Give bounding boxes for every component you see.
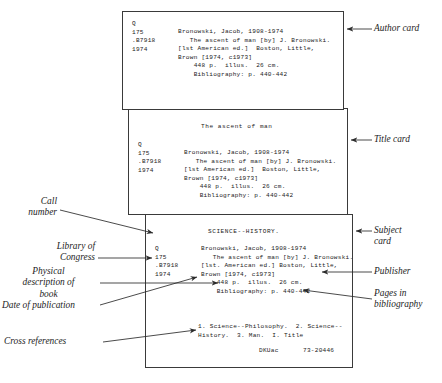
catalog-card-diagram: Q 175 .B7918 1974 Bronowski, Jacob, 1908… xyxy=(0,0,442,383)
annotation-author-card: Author card xyxy=(374,23,440,34)
subject-card-body: Bronowski, Jacob, 1908-1974 The ascent o… xyxy=(201,245,353,297)
annotation-subject-card: Subject card xyxy=(374,225,440,248)
subject-card-heading: SCIENCE--HISTORY. xyxy=(208,228,280,237)
subject-card-lc-number: 73-20446 xyxy=(303,347,334,356)
author-card-body: Bronowski, Jacob, 1908-1974 The ascent o… xyxy=(178,28,330,80)
title-card-call-number: Q 175 .B7918 1974 xyxy=(138,141,161,175)
annotation-library-of-congress: Library of Congress xyxy=(0,241,95,264)
title-card-body: Bronowski, Jacob, 1908-1974 The ascent o… xyxy=(184,149,336,201)
subject-card-call-number: Q 175 .B7918 1974 xyxy=(155,245,178,279)
subject-card-source-symbol: DKUac xyxy=(259,347,279,356)
author-card-call-number: Q 175 .B7918 1974 xyxy=(132,20,155,54)
annotation-cross-references: Cross references xyxy=(4,336,104,347)
title-card: The ascent of man Q 175 .B7918 1974 Bron… xyxy=(128,108,348,215)
annotation-date-of-publication: Date of publication xyxy=(2,300,102,311)
annotation-pages-in-bibliography: Pages in bibliography xyxy=(374,288,442,311)
annotation-publisher: Publisher xyxy=(374,266,442,277)
author-card: Q 175 .B7918 1974 Bronowski, Jacob, 1908… xyxy=(122,11,344,110)
annotation-title-card: Title card xyxy=(374,134,440,145)
subject-card-tracings: 1. Science--Philosophy. 2. Science-- His… xyxy=(198,323,343,340)
annotation-call-number: Call number xyxy=(0,196,57,219)
title-card-heading: The ascent of man xyxy=(201,123,273,132)
subject-card: SCIENCE--HISTORY. Q 175 .B7918 1974 Bron… xyxy=(145,214,353,368)
annotation-physical-description: Physical description of book xyxy=(0,266,97,300)
